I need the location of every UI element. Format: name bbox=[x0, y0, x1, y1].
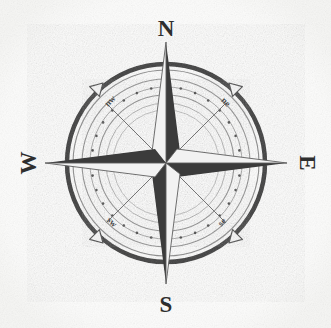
degree-dot bbox=[194, 92, 197, 95]
degree-dot bbox=[207, 99, 210, 102]
degree-dot bbox=[238, 174, 241, 177]
degree-dot bbox=[91, 149, 94, 152]
degree-dot bbox=[150, 87, 153, 90]
degree-dot bbox=[234, 135, 237, 138]
degree-dot bbox=[150, 236, 153, 239]
degree-dot bbox=[207, 224, 210, 227]
cardinal-label-south: S bbox=[160, 292, 173, 317]
degree-dot bbox=[95, 135, 98, 138]
degree-dot bbox=[228, 202, 231, 205]
degree-dot bbox=[102, 202, 105, 205]
degree-dot bbox=[91, 174, 94, 177]
degree-dot bbox=[123, 99, 126, 102]
degree-dot bbox=[194, 232, 197, 235]
degree-dot bbox=[123, 224, 126, 227]
degree-dot bbox=[95, 189, 98, 192]
cardinal-label-west: W bbox=[16, 152, 41, 175]
degree-dot bbox=[136, 232, 139, 235]
degree-dot bbox=[136, 92, 139, 95]
cardinal-label-north: N bbox=[158, 16, 175, 41]
degree-dot bbox=[180, 236, 183, 239]
compass-rose-figure: nw ne se sw N E S W bbox=[0, 0, 331, 328]
degree-dot bbox=[238, 149, 241, 152]
cardinal-label-east: E bbox=[295, 155, 320, 170]
degree-dot bbox=[228, 121, 231, 124]
degree-dot bbox=[234, 189, 237, 192]
compass-rose-graphic: nw ne se sw N E S W bbox=[0, 0, 331, 328]
degree-dot bbox=[102, 121, 105, 124]
degree-dot bbox=[180, 87, 183, 90]
